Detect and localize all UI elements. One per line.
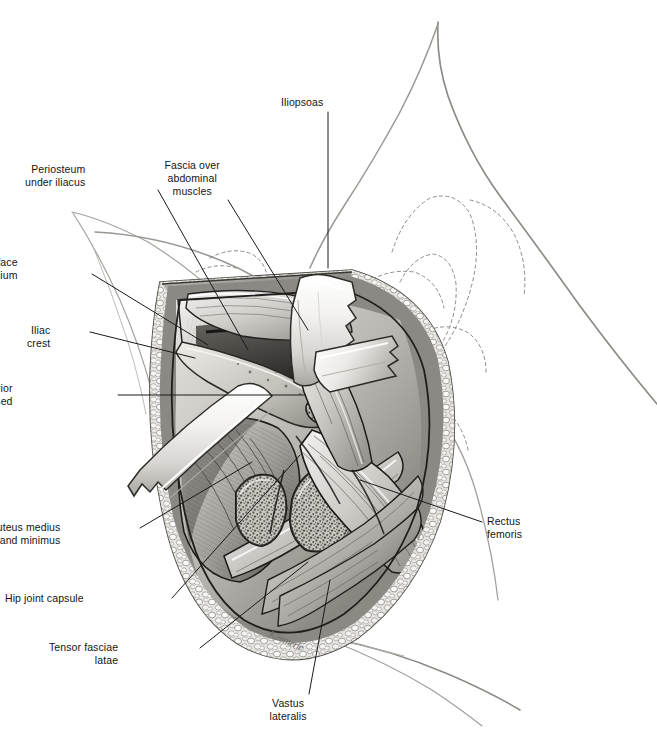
label-hip-joint-capsule: Hip joint capsule: [5, 592, 84, 605]
label-iliopsoas: Iliopsoas: [281, 96, 323, 109]
label-fascia-over-abdominal-muscles: Fascia over abdominal muscles: [165, 159, 220, 198]
anatomical-figure: IliopsoasPeriosteum under iliacusFascia …: [0, 0, 657, 734]
label-inner-surface-of-ilium: Inner surface of ilium: [0, 256, 18, 282]
label-rectus-femoris: Rectus femoris: [487, 515, 522, 541]
label-tensor-fasciae-latae: Tensor fasciae latae: [49, 641, 118, 667]
label-anterior-superior-iliac-spine-excised: Anterior superior iliac spine excised: [0, 382, 13, 408]
illustration-canvas: [0, 0, 657, 734]
label-vastus-lateralis: Vastus lateralis: [270, 697, 307, 723]
label-periosteum-under-iliacus: Periosteum under iliacus: [25, 163, 85, 189]
label-gluteus-medius-and-minimus: Gluteus medius and minimus: [0, 521, 60, 547]
label-iliac-crest: Iliac crest: [27, 324, 50, 350]
